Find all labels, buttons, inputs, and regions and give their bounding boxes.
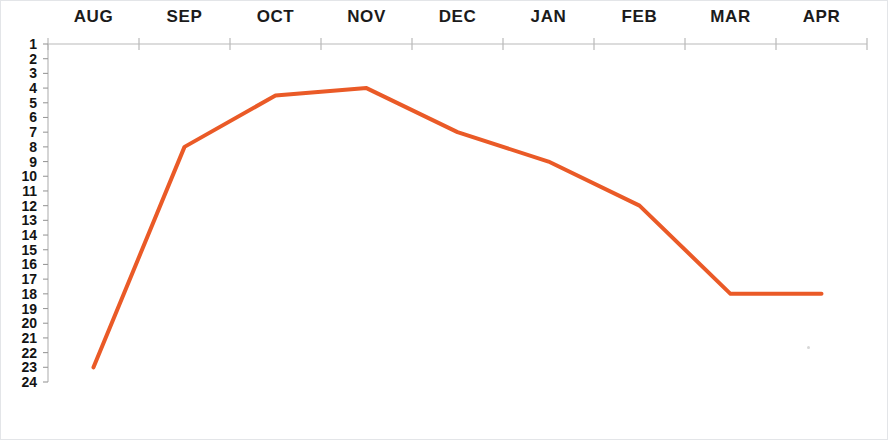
y-tick-label-4: 4 bbox=[29, 81, 37, 95]
y-tick-label-2: 2 bbox=[29, 52, 37, 66]
line-chart-svg bbox=[1, 1, 888, 440]
y-tick-label-14: 14 bbox=[21, 228, 37, 242]
y-tick-label-22: 22 bbox=[21, 346, 37, 360]
y-tick-label-5: 5 bbox=[29, 96, 37, 110]
top-axis bbox=[48, 38, 867, 382]
x-tick-label-mar: MAR bbox=[710, 7, 751, 27]
y-tick-label-9: 9 bbox=[29, 155, 37, 169]
y-tick-label-15: 15 bbox=[21, 243, 37, 257]
x-tick-label-nov: NOV bbox=[347, 7, 386, 27]
stray-mark bbox=[807, 346, 810, 349]
y-axis-ticks bbox=[43, 44, 48, 382]
y-tick-label-7: 7 bbox=[29, 125, 37, 139]
y-axis-labels: 123456789101112131415161718192021222324 bbox=[1, 1, 37, 440]
x-tick-label-dec: DEC bbox=[439, 7, 477, 27]
x-tick-label-feb: FEB bbox=[622, 7, 658, 27]
x-tick-label-jan: JAN bbox=[531, 7, 567, 27]
y-tick-label-21: 21 bbox=[21, 331, 37, 345]
x-tick-label-apr: APR bbox=[803, 7, 841, 27]
data-line bbox=[94, 88, 822, 367]
y-tick-label-17: 17 bbox=[21, 272, 37, 286]
data-series-group bbox=[94, 88, 822, 367]
chart-container: AUGSEPOCTNOVDECJANFEBMARAPR 123456789101… bbox=[0, 0, 888, 440]
y-tick-label-24: 24 bbox=[21, 375, 37, 389]
y-tick-label-20: 20 bbox=[21, 316, 37, 330]
x-tick-label-aug: AUG bbox=[74, 7, 114, 27]
y-tick-label-23: 23 bbox=[21, 360, 37, 374]
y-tick-label-11: 11 bbox=[22, 184, 37, 198]
y-tick-label-19: 19 bbox=[21, 302, 37, 316]
x-tick-label-sep: SEP bbox=[167, 7, 203, 27]
y-tick-label-12: 12 bbox=[21, 199, 37, 213]
y-tick-label-1: 1 bbox=[29, 37, 37, 51]
y-tick-label-10: 10 bbox=[21, 169, 37, 183]
y-tick-label-18: 18 bbox=[21, 287, 37, 301]
y-tick-label-8: 8 bbox=[29, 140, 37, 154]
plot-area: AUGSEPOCTNOVDECJANFEBMARAPR 123456789101… bbox=[1, 1, 888, 440]
y-tick-label-6: 6 bbox=[29, 110, 37, 124]
y-tick-label-16: 16 bbox=[21, 257, 37, 271]
x-tick-label-oct: OCT bbox=[257, 7, 295, 27]
y-tick-label-3: 3 bbox=[29, 66, 37, 80]
y-tick-label-13: 13 bbox=[21, 213, 37, 227]
